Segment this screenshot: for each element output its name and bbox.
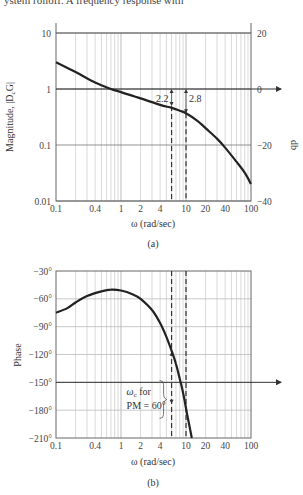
y-tick-label: −30° — [33, 267, 52, 277]
db-tick-label: −20 — [257, 141, 272, 151]
y-tick-label: 0.01 — [34, 197, 51, 207]
magnitude-plot: 1010.10.01 200−20−40 0.10.4124102040100 … — [4, 23, 300, 250]
gap-value-label: 2.2 — [156, 93, 169, 104]
magnitude-x-label: ω (rad/sec) — [131, 218, 175, 230]
y-tick-label: 10 — [42, 29, 52, 39]
pm-arrow-down — [170, 400, 174, 404]
y-tick-label: −60° — [33, 294, 52, 304]
x-tick-label: 1 — [119, 441, 124, 451]
x-tick-label: 0.4 — [89, 204, 101, 214]
db-tick-label: 20 — [257, 29, 267, 39]
pm-annotation-line1: ωc for — [127, 386, 152, 399]
y-tick-label: 1 — [46, 85, 51, 95]
db-y-label: db — [289, 140, 300, 150]
x-tick-label: 10 — [181, 441, 191, 451]
pm-annotation-line2: PM = 60° — [127, 400, 166, 411]
magnitude-frame — [56, 33, 251, 201]
phase-y-label: Phase — [12, 343, 23, 367]
phase-x-ticks: 0.10.4124102040100 — [50, 441, 258, 451]
x-tick-label: 4 — [158, 441, 163, 451]
caption-b: (b) — [147, 477, 159, 489]
magnitude-grid — [56, 23, 251, 201]
phase-plot: −30°−60°−90°−120°−150°−180°−210° 0.10.41… — [12, 267, 281, 490]
y-tick-label: −180° — [29, 406, 53, 416]
x-tick-label: 0.1 — [50, 441, 62, 451]
x-tick-label: 1 — [119, 204, 124, 214]
x-tick-label: 2 — [138, 204, 143, 214]
x-tick-label: 40 — [220, 204, 230, 214]
db-y-ticks: 200−20−40 — [257, 29, 272, 207]
magnitude-y-label: Magnitude, |DcG| — [4, 82, 17, 152]
x-tick-label: 10 — [181, 204, 191, 214]
y-tick-label: −90° — [33, 322, 52, 332]
x-tick-label: 100 — [244, 441, 259, 451]
magnitude-curve — [56, 62, 251, 184]
y-tick-label: −150° — [29, 378, 53, 388]
x-tick-label: 0.4 — [89, 441, 101, 451]
magnitude-x-ticks: 0.10.4124102040100 — [50, 204, 258, 214]
x-tick-label: 2 — [138, 441, 143, 451]
x-tick-label: 100 — [244, 204, 259, 214]
y-tick-label: −210° — [29, 434, 53, 444]
x-tick-label: 20 — [201, 441, 211, 451]
caption-a: (a) — [147, 238, 158, 250]
db-tick-label: −40 — [257, 197, 272, 207]
y-tick-label: 0.1 — [39, 141, 51, 151]
x-tick-label: 20 — [201, 204, 211, 214]
magnitude-y-ticks: 1010.10.01 — [34, 29, 51, 207]
gap-value-label: 2.8 — [189, 93, 202, 104]
x-tick-label: 0.1 — [50, 204, 62, 214]
phase-x-label: ω (rad/sec) — [131, 456, 175, 468]
y-tick-label: −120° — [29, 350, 53, 360]
bode-figure: 1010.10.01 200−20−40 0.10.4124102040100 … — [0, 0, 303, 495]
x-tick-label: 4 — [158, 204, 163, 214]
x-tick-label: 40 — [220, 441, 230, 451]
phase-y-ticks: −30°−60°−90°−120°−150°−180°−210° — [29, 267, 53, 444]
